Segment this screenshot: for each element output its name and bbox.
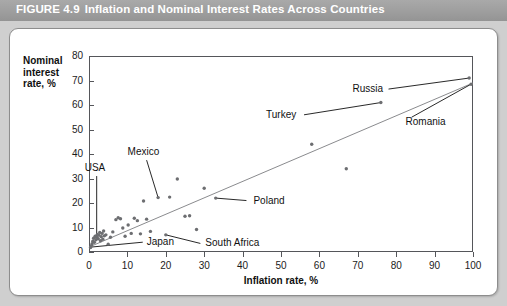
data-point xyxy=(469,82,472,85)
x-tick-mark xyxy=(396,252,397,257)
data-point xyxy=(188,214,191,217)
figure-header-bar: FIGURE 4.9Inflation and Nominal Interest… xyxy=(0,0,507,21)
data-point xyxy=(121,226,124,229)
x-tick-label: 80 xyxy=(383,260,409,271)
data-point xyxy=(133,216,136,219)
x-axis-title: Inflation rate, % xyxy=(89,275,473,286)
x-tick-label: 60 xyxy=(306,260,332,271)
annotation-leader-line xyxy=(389,78,470,89)
data-point xyxy=(176,177,179,180)
annotation-leader-line xyxy=(216,198,247,200)
y-tick-label: 10 xyxy=(61,222,83,233)
annotation-label-romania: Romania xyxy=(406,116,446,127)
data-point xyxy=(126,223,129,226)
annotation-leader-line xyxy=(304,103,381,115)
data-point xyxy=(119,217,122,220)
annotation-label-south-africa: South Africa xyxy=(205,237,259,248)
data-point xyxy=(136,219,139,222)
data-point xyxy=(104,233,107,236)
annotation-label-poland: Poland xyxy=(253,195,284,206)
x-tick-label: 50 xyxy=(268,260,294,271)
annotation-label-japan: Japan xyxy=(147,236,174,247)
trend-line xyxy=(89,83,473,247)
data-point xyxy=(156,196,159,199)
figure-page-body: Nominal interest rate, % 010203040506070… xyxy=(0,21,507,306)
data-point xyxy=(111,230,114,233)
x-tick-mark xyxy=(319,252,320,257)
data-point xyxy=(168,195,171,198)
annotation-label-turkey: Turkey xyxy=(266,109,296,120)
x-tick-label: 30 xyxy=(191,260,217,271)
x-tick-label: 0 xyxy=(76,260,102,271)
figure-container: FIGURE 4.9Inflation and Nominal Interest… xyxy=(0,0,507,306)
x-tick-label: 100 xyxy=(460,260,486,271)
data-point xyxy=(183,215,186,218)
annotation-leader-line xyxy=(412,84,472,117)
x-tick-label: 20 xyxy=(153,260,179,271)
y-tick-label: 80 xyxy=(61,50,83,61)
x-tick-mark xyxy=(243,252,244,257)
x-tick-mark xyxy=(281,252,282,257)
figure-header-title: FIGURE 4.9Inflation and Nominal Interest… xyxy=(16,3,385,15)
x-tick-mark xyxy=(204,252,205,257)
annotation-label-usa: USA xyxy=(85,162,106,173)
y-tick-mark xyxy=(89,252,94,253)
annotation-label-mexico: Mexico xyxy=(128,146,160,157)
y-tick-label: 50 xyxy=(61,124,83,135)
figure-title-text: Inflation and Nominal Interest Rates Acr… xyxy=(85,3,385,15)
data-point xyxy=(109,236,112,239)
annotation-label-russia: Russia xyxy=(353,83,384,94)
data-point xyxy=(130,232,133,235)
x-tick-mark xyxy=(473,252,474,257)
x-tick-label: 10 xyxy=(114,260,140,271)
data-point xyxy=(101,238,104,241)
x-tick-mark xyxy=(127,252,128,257)
data-point xyxy=(310,143,313,146)
x-tick-label: 70 xyxy=(345,260,371,271)
y-tick-label: 20 xyxy=(61,197,83,208)
data-point xyxy=(214,196,217,199)
data-point xyxy=(345,167,348,170)
y-tick-label: 40 xyxy=(61,148,83,159)
data-point xyxy=(123,235,126,238)
data-point xyxy=(379,101,382,104)
figure-panel: Nominal interest rate, % 010203040506070… xyxy=(9,28,498,296)
x-tick-mark xyxy=(166,252,167,257)
y-tick-label: 30 xyxy=(61,173,83,184)
x-tick-mark xyxy=(435,252,436,257)
figure-number: FIGURE 4.9 xyxy=(16,3,80,15)
y-tick-label: 60 xyxy=(61,99,83,110)
data-point xyxy=(139,232,142,235)
x-tick-label: 90 xyxy=(422,260,448,271)
data-point xyxy=(102,229,105,232)
data-point xyxy=(145,217,148,220)
x-tick-label: 40 xyxy=(230,260,256,271)
data-point xyxy=(467,76,470,79)
data-point xyxy=(107,242,110,245)
scatter-chart: Nominal interest rate, % 010203040506070… xyxy=(10,29,499,297)
y-tick-label: 0 xyxy=(61,246,83,257)
data-point xyxy=(149,230,152,233)
data-point xyxy=(142,199,145,202)
y-tick-label: 70 xyxy=(61,75,83,86)
x-tick-mark xyxy=(358,252,359,257)
data-point xyxy=(203,187,206,190)
annotation-leader-line xyxy=(147,160,159,197)
data-point xyxy=(195,228,198,231)
